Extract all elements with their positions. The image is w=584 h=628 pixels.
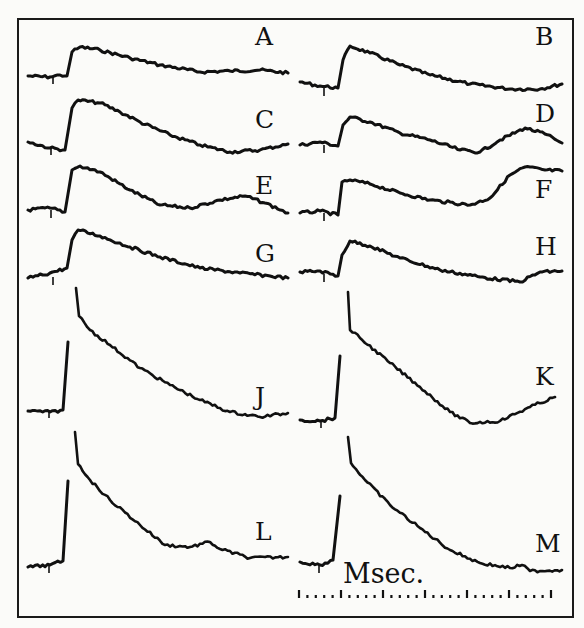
trace-l [28,432,288,573]
trace-e [28,166,288,218]
trace-line [300,241,562,282]
traces-group [28,46,562,573]
trace-label-m: M [535,529,561,558]
trace-label-e: E [255,171,273,200]
trace-label-g: G [255,239,275,268]
time-scale-ticks [299,590,551,598]
trace-h [300,241,562,282]
trace-line [300,46,562,90]
trace-label-j: J [252,382,265,411]
trace-label-h: H [535,232,557,261]
trace-line [28,230,288,279]
figure-frame [18,19,573,617]
trace-labels: ABCDEFGHJKLM [252,22,561,558]
trace-label-c: C [255,105,274,134]
trace-f [300,167,562,221]
trace-label-d: D [535,99,555,128]
trace-line [28,481,68,567]
trace-line [300,167,562,215]
trace-label-k: K [535,362,555,391]
trace-label-b: B [535,22,553,51]
trace-g [28,230,288,285]
trace-label-a: A [254,22,274,51]
trace-label-l: L [255,517,272,546]
trace-d [300,117,562,153]
oscilloscope-trace-figure: ABCDEFGHJKLM Msec. [0,0,584,628]
trace-line [300,356,340,422]
trace-label-f: F [535,175,552,204]
trace-line [28,166,288,213]
trace-line [28,342,68,412]
trace-line [28,100,288,154]
trace-m [300,437,562,573]
decay-line [348,437,562,572]
trace-b [300,46,562,96]
trace-j [28,288,288,418]
trace-a [28,47,288,84]
trace-line [300,117,562,153]
trace-line [28,47,288,78]
decay-line [348,292,555,424]
trace-line [300,496,340,566]
trace-c [28,100,288,155]
trace-k [300,292,555,428]
time-scale-label: Msec. [343,558,424,589]
